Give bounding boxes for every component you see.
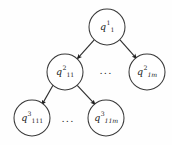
edge-level2-first-to-level3-first (42, 85, 53, 104)
node-label-level3-last: q311m (94, 113, 118, 123)
node-label-level2-first-subscript: 11 (66, 71, 74, 78)
node-label-level2-last: q21m (137, 67, 157, 77)
edge-level2-first-to-level3-last (77, 85, 95, 104)
node-label-level2-first: q211 (56, 67, 74, 77)
level2-ellipsis: ... (100, 66, 113, 76)
tree-diagram-figure: q11 q211 q21m q3111 q311m ... ... (0, 0, 172, 145)
level3-ellipsis: ... (62, 114, 75, 124)
node-label-root-subscript: 1 (110, 26, 114, 33)
node-label-level2-last-subscript: 1m (148, 71, 158, 78)
node-label-level3-first-subscript: 111 (32, 117, 44, 124)
edge-root-to-level2-first (77, 40, 94, 59)
node-label-level3-first: q3111 (21, 113, 43, 123)
node-label-root: q11 (100, 22, 114, 32)
edge-root-to-level2-last (120, 40, 136, 59)
node-label-level3-last-subscript: 11m (105, 117, 118, 124)
